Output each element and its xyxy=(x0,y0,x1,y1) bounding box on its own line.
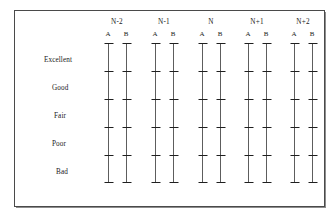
tick-Nplus1-A-0 xyxy=(244,43,253,44)
tick-Nplus1-A-2 xyxy=(244,99,253,100)
tick-N-A-1 xyxy=(198,71,207,72)
tick-Nplus2-B-4 xyxy=(308,155,317,156)
tick-N-A-4 xyxy=(198,155,207,156)
tick-Nminus1-B-4 xyxy=(169,155,178,156)
row-label-bad: Bad xyxy=(56,169,68,176)
sub-label-Nminus2-B: B xyxy=(124,31,129,38)
tick-Nplus1-B-0 xyxy=(262,43,271,44)
axis-line-N-B xyxy=(220,43,221,182)
tick-Nplus2-B-2 xyxy=(308,99,317,100)
sub-label-Nplus2-B: B xyxy=(310,31,315,38)
tick-Nplus2-B-0 xyxy=(308,43,317,44)
tick-N-B-0 xyxy=(216,43,225,44)
tick-Nminus2-B-1 xyxy=(122,71,131,72)
sub-label-Nminus1-B: B xyxy=(171,31,176,38)
tick-Nminus1-B-3 xyxy=(169,127,178,128)
tick-Nplus1-B-5 xyxy=(262,182,271,183)
tick-Nplus2-B-5 xyxy=(308,182,317,183)
tick-Nminus2-B-2 xyxy=(122,99,131,100)
row-label-excellent: Excellent xyxy=(44,57,72,64)
tick-Nminus2-A-1 xyxy=(104,71,113,72)
axis-line-Nplus1-B xyxy=(266,43,267,182)
tick-Nplus2-A-4 xyxy=(290,155,299,156)
tick-Nplus1-B-4 xyxy=(262,155,271,156)
sub-label-Nplus2-A: A xyxy=(291,31,296,38)
tick-Nminus2-A-3 xyxy=(104,127,113,128)
tick-N-A-2 xyxy=(198,99,207,100)
tick-Nplus2-B-3 xyxy=(308,127,317,128)
tick-Nminus2-A-5 xyxy=(104,182,113,183)
axis-line-Nplus1-A xyxy=(248,43,249,182)
tick-N-A-0 xyxy=(198,43,207,44)
tick-Nminus1-B-5 xyxy=(169,182,178,183)
row-label-fair: Fair xyxy=(54,113,66,120)
tick-Nminus2-A-0 xyxy=(104,43,113,44)
group-header-Nminus1: N-1 xyxy=(158,19,170,26)
tick-Nplus1-A-3 xyxy=(244,127,253,128)
group-header-Nplus2: N+2 xyxy=(296,19,309,26)
sub-label-Nplus1-B: B xyxy=(264,31,269,38)
sub-label-N-B: B xyxy=(218,31,223,38)
tick-Nminus1-A-4 xyxy=(151,155,160,156)
axis-line-Nplus2-A xyxy=(294,43,295,182)
row-label-good: Good xyxy=(52,85,68,92)
tick-Nplus1-A-4 xyxy=(244,155,253,156)
axis-line-Nminus2-A xyxy=(108,43,109,182)
tick-Nminus2-B-3 xyxy=(122,127,131,128)
sub-label-Nminus2-A: A xyxy=(105,31,110,38)
tick-Nplus1-B-2 xyxy=(262,99,271,100)
tick-Nplus2-A-2 xyxy=(290,99,299,100)
tick-Nminus1-A-0 xyxy=(151,43,160,44)
tick-Nplus1-A-5 xyxy=(244,182,253,183)
tick-N-B-5 xyxy=(216,182,225,183)
group-header-Nplus1: N+1 xyxy=(250,19,263,26)
tick-Nminus1-B-0 xyxy=(169,43,178,44)
tick-Nminus2-A-2 xyxy=(104,99,113,100)
sub-label-Nminus1-A: A xyxy=(152,31,157,38)
tick-Nplus1-A-1 xyxy=(244,71,253,72)
axis-line-N-A xyxy=(202,43,203,182)
tick-Nplus2-A-0 xyxy=(290,43,299,44)
figure-root: N-2ABN-1ABNABN+1ABN+2ABExcellentGoodFair… xyxy=(0,0,336,219)
axis-line-Nminus1-A xyxy=(155,43,156,182)
tick-Nplus2-A-3 xyxy=(290,127,299,128)
tick-Nminus2-B-5 xyxy=(122,182,131,183)
tick-Nplus1-B-3 xyxy=(262,127,271,128)
tick-Nplus1-B-1 xyxy=(262,71,271,72)
tick-Nplus2-B-1 xyxy=(308,71,317,72)
tick-N-B-4 xyxy=(216,155,225,156)
tick-Nminus1-A-5 xyxy=(151,182,160,183)
tick-Nminus2-B-4 xyxy=(122,155,131,156)
tick-Nminus1-B-1 xyxy=(169,71,178,72)
tick-N-A-3 xyxy=(198,127,207,128)
tick-Nminus1-B-2 xyxy=(169,99,178,100)
axis-line-Nminus1-B xyxy=(173,43,174,182)
tick-Nminus1-A-2 xyxy=(151,99,160,100)
group-header-Nminus2: N-2 xyxy=(111,19,123,26)
tick-N-B-1 xyxy=(216,71,225,72)
tick-Nminus1-A-3 xyxy=(151,127,160,128)
tick-Nplus2-A-5 xyxy=(290,182,299,183)
tick-N-A-5 xyxy=(198,182,207,183)
sub-label-Nplus1-A: A xyxy=(245,31,250,38)
group-header-N: N xyxy=(208,19,213,26)
figure-frame xyxy=(14,10,325,207)
row-label-poor: Poor xyxy=(52,141,66,148)
sub-label-N-A: A xyxy=(199,31,204,38)
tick-N-B-2 xyxy=(216,99,225,100)
tick-Nminus2-A-4 xyxy=(104,155,113,156)
tick-Nminus2-B-0 xyxy=(122,43,131,44)
tick-Nplus2-A-1 xyxy=(290,71,299,72)
axis-line-Nplus2-B xyxy=(312,43,313,182)
tick-Nminus1-A-1 xyxy=(151,71,160,72)
tick-N-B-3 xyxy=(216,127,225,128)
axis-line-Nminus2-B xyxy=(126,43,127,182)
